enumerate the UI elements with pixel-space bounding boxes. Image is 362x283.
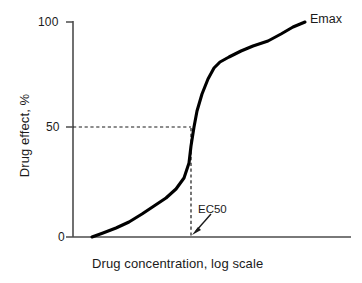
ec50-arrow-head	[192, 227, 201, 235]
emax-annotation-label: Emax	[310, 12, 342, 26]
y-axis-tick-label-50: 50	[46, 120, 60, 134]
y-axis-tick-label-100: 100	[38, 15, 59, 29]
ec50-annotation-label: EC50	[198, 203, 227, 215]
y-axis-tick-label-0: 0	[58, 230, 65, 244]
dose-response-plot	[0, 0, 362, 283]
figure-canvas: 100 50 0 Emax EC50 Drug concentration, l…	[0, 0, 362, 283]
x-axis-title: Drug concentration, log scale	[92, 256, 263, 271]
y-axis-title: Drug effect, %	[17, 74, 32, 198]
